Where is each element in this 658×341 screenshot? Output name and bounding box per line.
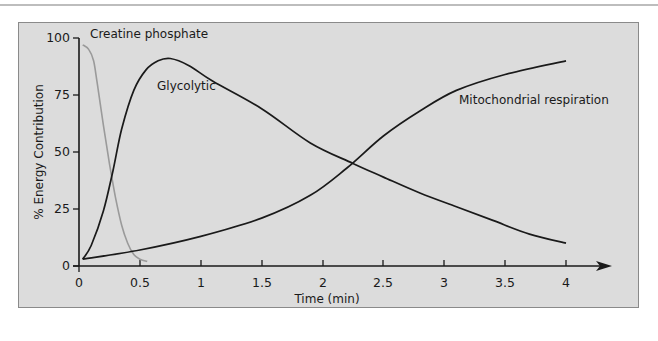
y-tick-label: 25 <box>54 201 70 216</box>
y-tick-label: 75 <box>54 87 70 102</box>
x-tick-label: 0 <box>75 275 83 290</box>
energy-contribution-chart: 0 25 50 75 100 % Energy Contribution 0 0… <box>0 0 658 341</box>
y-axis-label: % Energy Contribution <box>32 84 46 220</box>
series-creatine-phosphate <box>83 45 148 262</box>
series-glycolytic <box>83 58 566 259</box>
x-tick-label: 2.5 <box>373 275 393 290</box>
y-tick-label: 50 <box>54 144 70 159</box>
x-tick-label: 3.5 <box>495 275 515 290</box>
label-glycolytic: Glycolytic <box>157 79 216 93</box>
label-creatine-phosphate: Creatine phosphate <box>90 27 208 41</box>
x-tick-label: 3 <box>440 275 448 290</box>
x-tick-label: 1.5 <box>252 275 272 290</box>
x-tick-label: 1 <box>197 275 205 290</box>
x-tick-label: 4 <box>562 275 570 290</box>
x-tick-label: 0.5 <box>130 275 150 290</box>
y-tick-label: 100 <box>46 30 70 45</box>
x-tick-label: 2 <box>319 275 327 290</box>
y-ticks <box>73 38 79 266</box>
label-mitochondrial-respiration: Mitochondrial respiration <box>459 93 609 107</box>
y-tick-label: 0 <box>62 258 70 273</box>
x-axis-label: Time (min) <box>293 292 359 306</box>
series-mitochondrial-respiration <box>83 61 566 259</box>
